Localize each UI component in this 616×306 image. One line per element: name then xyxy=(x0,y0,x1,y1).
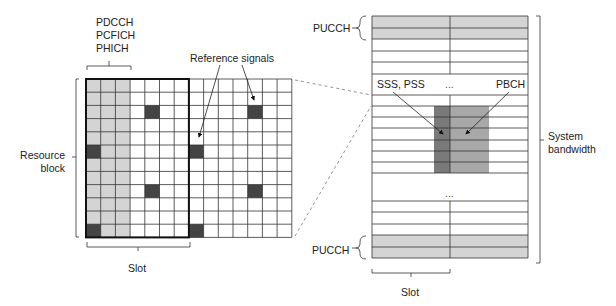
reference-signal-cell xyxy=(189,224,204,237)
pucch-top-bracket xyxy=(352,16,366,40)
system-bandwidth-grid xyxy=(372,16,528,258)
label-pdcch: PDCCH xyxy=(96,16,133,28)
label-pucch-bottom: PUCCH xyxy=(312,244,349,256)
reference-signal-cell xyxy=(145,105,160,118)
label-ellipsis-top: ... xyxy=(445,78,454,90)
label-pcfich: PCFICH xyxy=(96,29,135,41)
label-phich: PHICH xyxy=(96,42,129,54)
reference-signal-cell xyxy=(189,145,204,158)
resource-block-grid xyxy=(86,79,292,237)
label-reference-signals: Reference signals xyxy=(190,52,274,64)
label-sss-pss: SSS, PSS xyxy=(377,78,425,90)
control-channels-bracket xyxy=(87,61,131,70)
slot-bracket-right xyxy=(372,269,450,277)
zoom-dashed-line-top xyxy=(295,80,371,95)
label-pucch-top: PUCCH xyxy=(313,22,350,34)
reference-signal-cell xyxy=(86,145,101,158)
label-bandwidth: bandwidth xyxy=(548,143,596,155)
zoom-dashed-line-bottom xyxy=(295,106,371,236)
system-bandwidth-bracket xyxy=(536,16,544,263)
pucch-bottom-bracket xyxy=(352,236,366,259)
label-block: block xyxy=(18,162,65,174)
reference-signal-cell xyxy=(248,185,263,198)
label-system: System xyxy=(548,130,583,142)
sss-pss-block xyxy=(434,106,450,173)
label-pbch: PBCH xyxy=(496,78,525,90)
reference-signal-cell xyxy=(145,185,160,198)
label-resource: Resource xyxy=(18,149,65,161)
label-slot-left: Slot xyxy=(128,262,146,274)
reference-signal-cell xyxy=(86,224,101,237)
slot-bracket-left xyxy=(87,242,190,251)
pbch-block xyxy=(450,106,489,173)
lte-resource-grid-diagram xyxy=(0,0,616,306)
arrow-reference-signal-1 xyxy=(199,65,220,137)
reference-signal-cell xyxy=(248,105,263,118)
label-ellipsis-mid: ... xyxy=(445,187,454,199)
label-slot-right: Slot xyxy=(401,286,419,298)
resource-block-bracket xyxy=(72,79,79,237)
